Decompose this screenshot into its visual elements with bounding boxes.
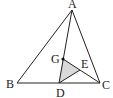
label-c: C bbox=[102, 78, 110, 92]
label-d: D bbox=[56, 86, 65, 98]
label-g: G bbox=[51, 52, 60, 66]
triangle-diagram: A B C D G E bbox=[0, 0, 113, 98]
point-g-dot bbox=[61, 57, 64, 60]
label-e: E bbox=[81, 57, 88, 71]
label-a: A bbox=[68, 0, 77, 11]
label-b: B bbox=[6, 77, 14, 91]
